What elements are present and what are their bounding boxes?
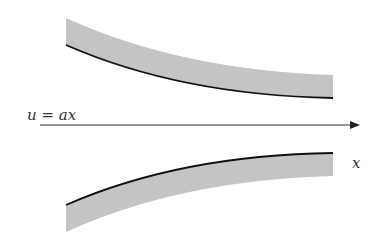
- flow-label: u = ax: [27, 106, 77, 124]
- stagnation-flow-diagram: u = ax x: [0, 0, 389, 251]
- flow-arrow-head-icon: [350, 121, 360, 129]
- axis-label-x: x: [352, 154, 361, 172]
